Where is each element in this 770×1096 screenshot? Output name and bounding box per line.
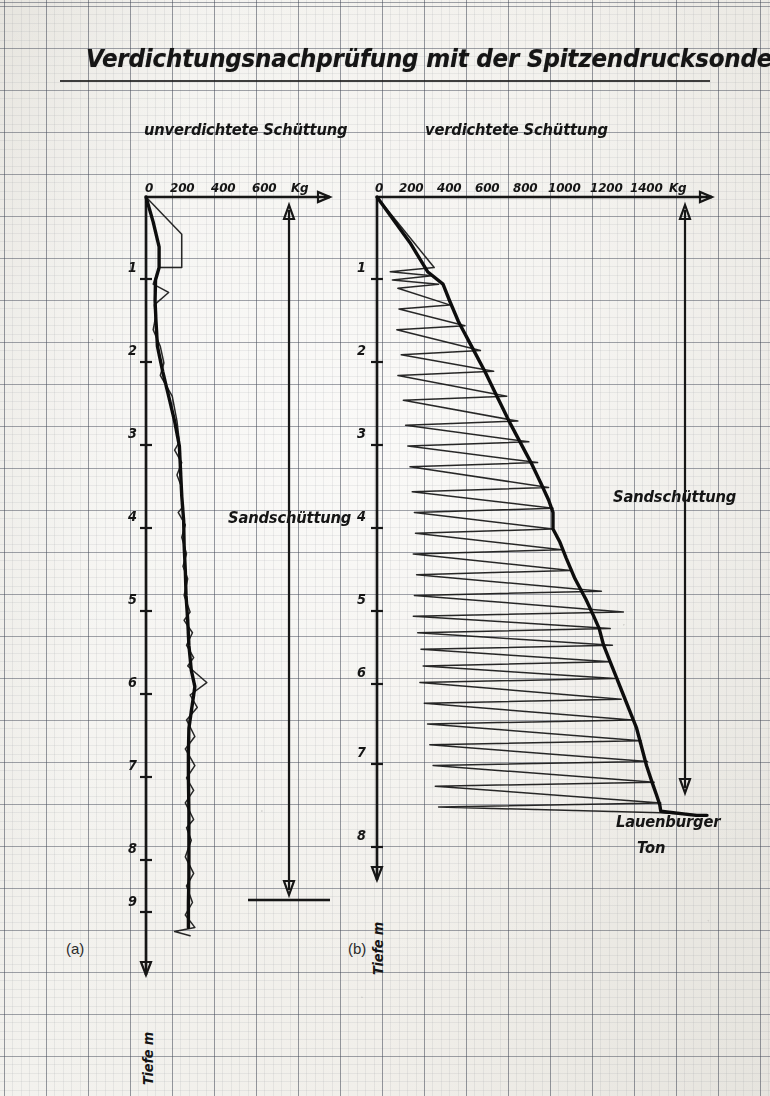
figure-sheet: Verdichtungsnachprüfung mit der Spitzend… [0, 0, 770, 1096]
panel-b-axes [371, 192, 712, 880]
panel-a-axes [140, 192, 330, 975]
panel-a-envelope-trace [146, 197, 195, 927]
panel-b-traces [377, 197, 707, 815]
panel-b-envelope-trace [377, 197, 707, 815]
panel-a-traces [146, 197, 207, 936]
panel-b-sawtooth-trace [377, 197, 707, 815]
plot-canvas [0, 0, 770, 1096]
